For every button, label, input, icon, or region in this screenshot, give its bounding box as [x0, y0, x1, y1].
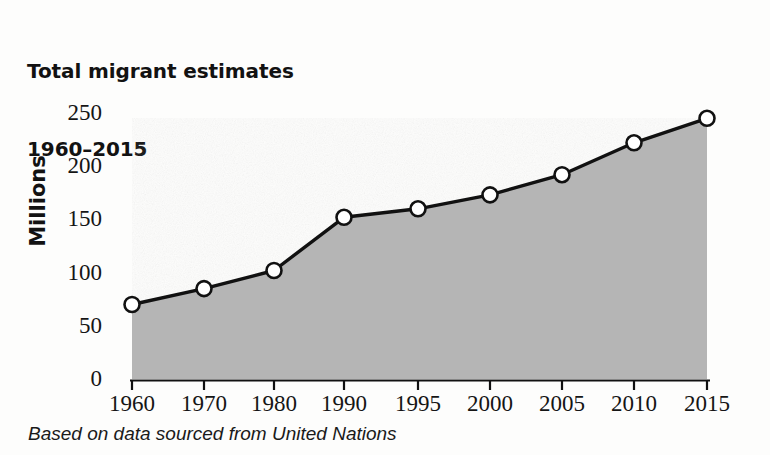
data-point-marker — [125, 297, 140, 312]
chart-source-caption: Based on data sourced from United Nation… — [28, 423, 397, 445]
x-tick-label-2005: 2005 — [539, 391, 585, 417]
chart-figure: Total migrant estimates 1960–2015 — [0, 0, 770, 455]
y-axis-title: Millions — [26, 141, 56, 261]
data-point-marker — [555, 167, 570, 182]
x-tick-label-1970: 1970 — [181, 391, 227, 417]
data-point-marker — [337, 210, 352, 225]
data-point-marker — [700, 111, 715, 126]
x-tick-label-1960: 1960 — [109, 391, 155, 417]
data-point-marker — [267, 263, 282, 278]
data-point-marker — [197, 281, 212, 296]
y-tick-label-250: 250 — [28, 100, 102, 126]
y-tick-label-0: 0 — [28, 366, 102, 392]
data-point-marker — [627, 135, 642, 150]
data-point-marker — [483, 187, 498, 202]
x-axis — [130, 380, 710, 390]
x-tick-label-2015: 2015 — [684, 391, 730, 417]
y-tick-label-100: 100 — [28, 260, 102, 286]
x-tick-label-2000: 2000 — [467, 391, 513, 417]
plot-area: 0 50 100 150 200 250 1960 1970 1980 1990… — [0, 0, 770, 455]
area-chart-svg — [0, 0, 770, 455]
area-fill-polygon — [132, 118, 707, 379]
x-tick-label-1980: 1980 — [251, 391, 297, 417]
x-tick-label-2010: 2010 — [611, 391, 657, 417]
data-point-marker — [411, 201, 426, 216]
x-tick-label-1990: 1990 — [321, 391, 367, 417]
series-area — [132, 118, 707, 379]
y-tick-label-50: 50 — [28, 313, 102, 339]
x-tick-label-1995: 1995 — [395, 391, 441, 417]
